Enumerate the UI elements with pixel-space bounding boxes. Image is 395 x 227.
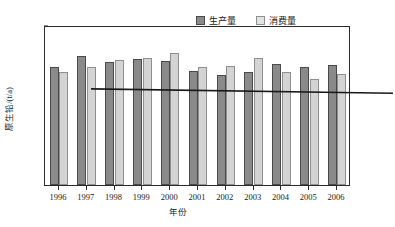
bar-consumption xyxy=(282,72,291,185)
bar-production xyxy=(161,61,170,185)
x-axis-tick-label: 2006 xyxy=(328,192,345,202)
y-axis: 250002000015000100005000 xyxy=(0,0,44,227)
x-axis-tick-mark xyxy=(58,186,59,190)
bar-production xyxy=(328,65,337,185)
bar-consumption xyxy=(198,67,207,185)
bar-production xyxy=(50,67,59,185)
x-axis-tick-label: 1998 xyxy=(105,192,122,202)
x-axis-tick-mark xyxy=(141,186,142,190)
x-axis-tick-mark xyxy=(169,186,170,190)
x-axis-tick-label: 2002 xyxy=(216,192,233,202)
x-axis-tick-label: 1997 xyxy=(77,192,94,202)
x-axis-tick-label: 2005 xyxy=(300,192,317,202)
x-axis-tick-label: 2001 xyxy=(189,192,206,202)
x-axis-tick-label: 2003 xyxy=(244,192,261,202)
x-axis-tick-label: 2004 xyxy=(272,192,289,202)
bar-production xyxy=(105,62,114,185)
bar-production xyxy=(272,64,281,185)
legend-swatch-consumption-icon xyxy=(256,16,265,25)
bar-production xyxy=(77,56,86,185)
x-axis-tick-mark xyxy=(308,186,309,190)
x-axis-tick-label: 1996 xyxy=(49,192,66,202)
bar-consumption xyxy=(143,58,152,185)
bar-production xyxy=(300,67,309,185)
x-axis-tick-mark xyxy=(336,186,337,190)
x-axis-tick-mark xyxy=(86,186,87,190)
bar-consumption xyxy=(59,72,68,185)
bar-consumption xyxy=(310,79,319,185)
x-axis-tick-mark xyxy=(253,186,254,190)
bar-production xyxy=(217,75,226,185)
x-axis-tick-label: 1999 xyxy=(133,192,150,202)
x-axis-tick-mark xyxy=(114,186,115,190)
x-axis-tick-mark xyxy=(225,186,226,190)
bar-consumption xyxy=(87,67,96,185)
legend-swatch-production-icon xyxy=(196,16,205,25)
plot-area xyxy=(44,26,350,186)
x-axis-tick-mark xyxy=(197,186,198,190)
bar-consumption xyxy=(337,74,346,185)
bar-consumption xyxy=(115,60,124,185)
bar-production xyxy=(133,59,142,185)
x-axis-tick-mark xyxy=(280,186,281,190)
x-axis-title: 年份 xyxy=(0,205,356,217)
bar-consumption xyxy=(254,58,263,185)
x-axis-tick-label: 2000 xyxy=(161,192,178,202)
bar-production xyxy=(244,72,253,185)
bar-production xyxy=(189,71,198,185)
bar-consumption xyxy=(226,66,235,185)
bar-consumption xyxy=(170,53,179,185)
